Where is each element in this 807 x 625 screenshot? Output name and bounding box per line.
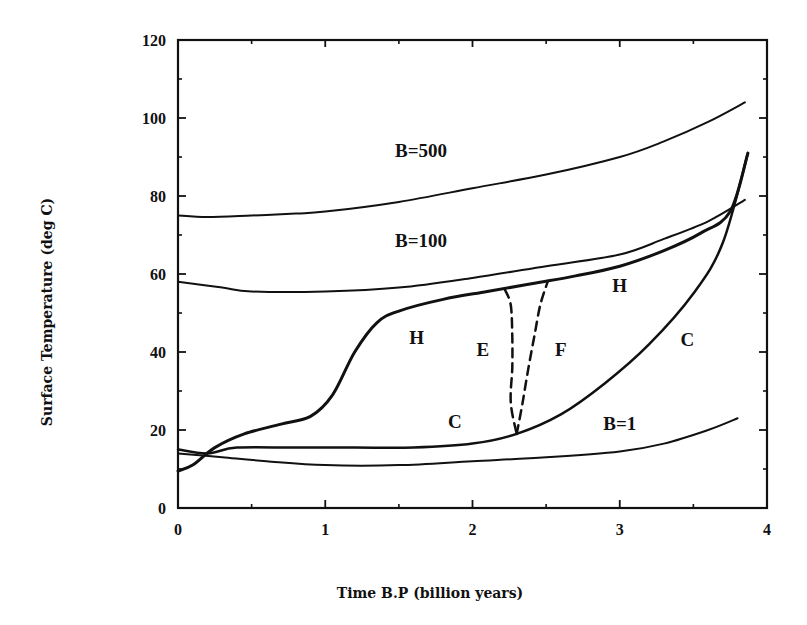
y-axis-title: Surface Temperature (deg C) <box>39 198 55 426</box>
series-h-hot-branch <box>178 153 748 471</box>
curve-label: B=500 <box>395 140 447 161</box>
curve-label: H <box>612 275 627 296</box>
series-f-transition <box>517 282 548 434</box>
x-tick-label: 1 <box>321 521 329 538</box>
series-c-cold-branch <box>178 153 748 453</box>
chart: 01234 020406080100120 B=500B=100HHEFCCB=… <box>0 0 807 625</box>
y-tick-label: 0 <box>158 500 166 517</box>
x-tick-label: 0 <box>174 521 182 538</box>
y-tick-label: 120 <box>142 32 166 49</box>
curve-label: F <box>555 339 567 360</box>
curve-label: B=100 <box>395 230 447 251</box>
curve-label: B=1 <box>603 413 636 434</box>
curve-label: C <box>448 411 462 432</box>
series-b-100 <box>178 200 745 292</box>
plot-frame <box>178 40 767 508</box>
y-tick-label: 40 <box>150 344 166 361</box>
x-axis-title: Time B.P (billion years) <box>337 585 524 601</box>
y-tick-label: 100 <box>142 110 166 127</box>
x-tick-label: 2 <box>469 521 477 538</box>
series-layer <box>178 102 748 471</box>
y-tick-label: 80 <box>150 188 166 205</box>
x-tick-label: 3 <box>616 521 624 538</box>
curve-label: E <box>476 339 489 360</box>
y-tick-label: 60 <box>150 266 166 283</box>
series-b-500 <box>178 102 745 217</box>
curve-label: C <box>681 329 695 350</box>
annotations: B=500B=100HHEFCCB=1 <box>395 140 694 434</box>
series-e-transition <box>505 290 517 434</box>
plot-border <box>178 40 767 508</box>
x-tick-label: 4 <box>763 521 771 538</box>
curve-label: H <box>409 327 424 348</box>
x-axis: 01234 <box>174 40 771 538</box>
y-tick-label: 20 <box>150 422 166 439</box>
